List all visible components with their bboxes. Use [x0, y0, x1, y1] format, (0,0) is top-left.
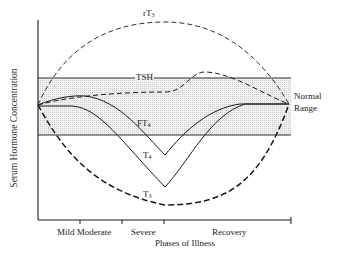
- hormone-phase-diagram: [0, 0, 339, 253]
- normal-range-label-line2: Range: [294, 104, 317, 113]
- x-category-recovery: Recovery: [212, 228, 246, 237]
- rT3-label-sub: 3: [152, 12, 155, 18]
- FT4-label: FT4: [137, 119, 151, 128]
- rT3-label: rT3: [143, 9, 155, 18]
- x-category-severe: Severe: [131, 228, 156, 237]
- TSH-label: TSH: [135, 73, 154, 82]
- y-axis-label: Serum Hormone Concentration: [9, 68, 19, 187]
- rT3-label-base: rT: [143, 8, 152, 18]
- T4-label-sub: 4: [149, 154, 152, 160]
- T3-label-sub: 3: [149, 193, 152, 199]
- normal-range-label-line1: Normal: [294, 92, 322, 101]
- x-category-mild-moderate: Mild Moderate: [57, 228, 111, 237]
- TSH-label-text: TSH: [136, 72, 153, 82]
- T3-label: T3: [143, 190, 152, 199]
- x-axis-label: Phases of Illness: [155, 239, 215, 248]
- T4-label: T4: [143, 151, 152, 160]
- FT4-label-base: FT: [137, 118, 148, 128]
- FT4-label-sub: 4: [148, 122, 151, 128]
